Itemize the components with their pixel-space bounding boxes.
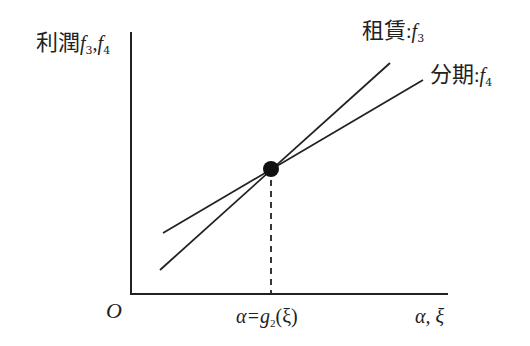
leasing-label-text: 租賃 <box>362 18 406 43</box>
installment-func-subscript: 4 <box>485 76 492 89</box>
xi-argument: (ξ) <box>276 305 298 327</box>
f3-subscript: 3 <box>86 44 93 57</box>
installment-label-text: 分期 <box>430 62 474 87</box>
origin-label: O <box>106 300 122 322</box>
alpha-equals-g: α=g <box>236 305 270 327</box>
y-axis-label-text: 利潤 <box>36 30 80 55</box>
leasing-func-subscript: 3 <box>417 32 424 45</box>
f4-subscript: 4 <box>103 44 110 57</box>
profit-comparison-diagram: 利潤f3,f4 租賃:f3 分期:f4 O α=g2(ξ) α, ξ <box>0 0 530 346</box>
line-installment-f4 <box>163 80 423 233</box>
x-axis-label: α, ξ <box>415 306 444 326</box>
leasing-label: 租賃:f3 <box>362 20 424 44</box>
installment-label: 分期:f4 <box>430 64 492 88</box>
y-axis-label: 利潤f3,f4 <box>36 32 110 56</box>
intersection-x-label: α=g2(ξ) <box>236 306 298 329</box>
intersection-point <box>263 161 279 177</box>
